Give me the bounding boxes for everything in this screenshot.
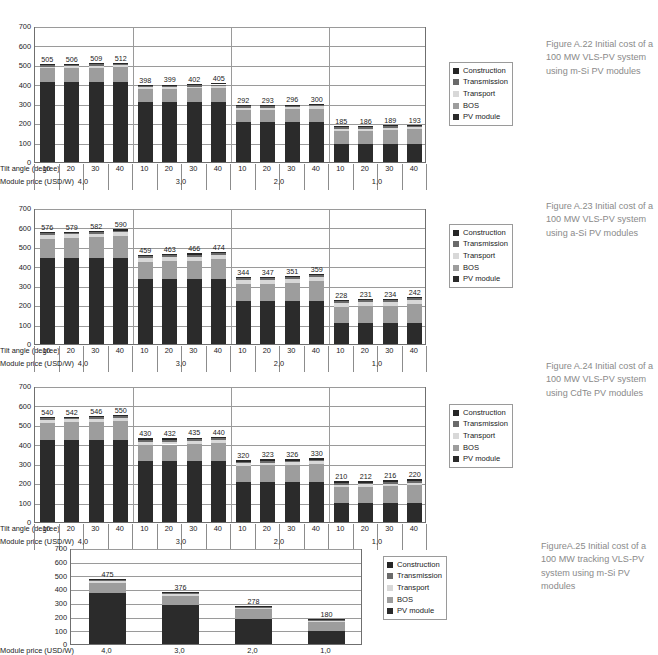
bar-segment-transmission [285,277,300,279]
bar-segment-pv-module [138,461,153,522]
bar-segment-transport [235,608,272,610]
bar-value-label: 475 [94,571,122,578]
legend-label: BOS [397,596,413,604]
plot-area-fig-a24: 5405425465504304324354403203233263302102… [34,387,426,523]
bar-segment-bos [162,596,199,606]
legend-swatch-pv-module [387,608,393,614]
legend-item: Transmission [453,77,508,89]
bar-segment-construction [113,63,128,64]
bar-segment-transport [260,463,275,466]
axis-title-module-price-axis: Module price (USD/W) [0,178,31,186]
bar-segment-transmission [285,461,300,463]
bar-segment-pv-module [308,631,345,644]
bar-segment-bos [236,284,251,301]
legend-swatch-transport [453,433,459,439]
bar [162,84,177,162]
bar-segment-transport [309,277,324,281]
bar-segment-pv-module [187,461,202,522]
bar-segment-pv-module [138,279,153,344]
bar-segment-bos [236,466,251,482]
axis-tick-tilt-angle-axis: 10 [34,347,59,355]
y-tick-label: 600 [19,225,31,232]
axis-tick-tilt-angle-axis: 30 [181,525,206,533]
figure-caption: Figure A.24 Initial cost of a 100 MW VLS… [546,360,656,400]
bar-segment-transport [334,485,349,488]
bar-segment-bos [113,421,128,441]
axis-tick-tilt-angle-axis: 20 [255,347,280,355]
group-separator [133,210,134,344]
bar-segment-construction [40,417,55,418]
bar [285,276,300,344]
legend-item: BOS [453,100,508,112]
axis-tick-divider [34,524,35,550]
bar-segment-transmission [40,233,55,235]
axis-tick-tilt-angle-axis: 40 [304,525,329,533]
bar [334,481,349,522]
legend-label: Construction [463,67,506,75]
axis-tick-divider [206,524,207,550]
y-tick-label: 500 [55,573,67,580]
bar-segment-transport [285,107,300,109]
bar-segment-transport [407,127,422,129]
bar-segment-construction [162,254,177,255]
bar-segment-transport [334,129,349,131]
legend-swatch-pv-module [453,456,459,462]
bar-segment-transmission [211,85,226,87]
bar-segment-transmission [113,416,128,418]
bar-segment-transport [138,258,153,262]
bar-segment-pv-module [285,122,300,162]
bar-segment-pv-module [89,258,104,344]
bar-segment-transmission [162,593,199,594]
axis-tick-divider [426,524,427,550]
bar-segment-pv-module [260,122,275,162]
axis-tick-module-price-axis: 2,0 [230,538,328,546]
bar-segment-construction [383,125,398,126]
bar [162,254,177,344]
axis-tick-module-price-axis: 1,0 [328,178,426,186]
bar-segment-pv-module [236,301,251,344]
bar-segment-pv-module [162,102,177,162]
bar [309,104,324,162]
legend-label: PV module [463,275,500,283]
bar-segment-construction [407,125,422,126]
bar-segment-bos [187,261,202,280]
gridline [35,27,425,28]
legend-item: Transmission [387,571,442,583]
bar-segment-bos [138,445,153,461]
y-tick-label: 300 [19,101,31,108]
axis-tick-tilt-angle-axis: 40 [402,347,427,355]
chart-legend: ConstructionTransmissionTransportBOSPV m… [383,556,447,620]
axis-tick-divider [353,346,354,372]
axis-tick-tilt-angle-axis: 20 [255,165,280,173]
axis-tick-tilt-angle-axis: 40 [206,525,231,533]
bar-segment-construction [64,232,79,233]
legend-label: Transmission [463,240,508,248]
bar-segment-bos [211,88,226,103]
axis-tick-module-price-axis: 1,0 [289,647,362,655]
bar-segment-pv-module [334,503,349,522]
bar-segment-bos [89,583,126,593]
legend-item: BOS [453,262,508,274]
bar-segment-pv-module [113,258,128,344]
bar-segment-construction [187,438,202,440]
axis-tick-divider [108,524,109,550]
axis-tick-tilt-angle-axis: 40 [304,165,329,173]
bar-segment-bos [162,445,177,462]
bar-segment-construction [89,231,104,232]
bar-segment-pv-module [162,279,177,344]
figure-caption: Figure A.23 Initial cost of a 100 MW VLS… [546,200,656,240]
bar-segment-bos [334,307,349,323]
bar [407,297,422,344]
axis-tick-tilt-angle-axis: 20 [157,165,182,173]
y-tick-label: 700 [19,205,31,212]
axis-tick-module-price-axis: 2,0 [216,647,289,655]
bar [236,460,251,522]
bar-segment-bos [113,67,128,82]
bar-segment-construction [162,592,199,593]
bar-segment-construction [236,105,251,106]
bar-segment-transport [187,87,202,89]
gridline [35,387,425,388]
bar-segment-transport [309,106,324,108]
axis-tick-tilt-angle-axis: 30 [83,165,108,173]
axis-tick-tilt-angle-axis: 40 [402,165,427,173]
